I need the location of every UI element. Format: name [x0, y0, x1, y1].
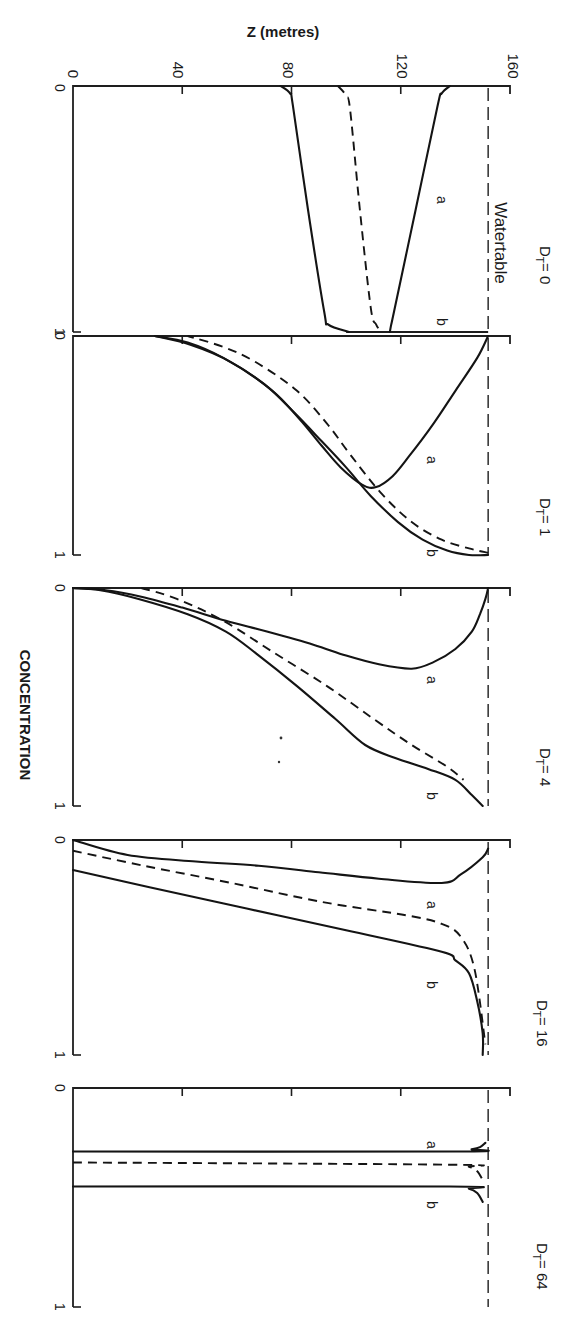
conc-tick-1: 1 [52, 1051, 68, 1059]
panel-dt-1: 01abDT= 1 [52, 332, 554, 559]
curve-dashed [141, 588, 463, 780]
z-axis-line [73, 336, 510, 555]
concentration-axis-title: CONCENTRATION [17, 650, 34, 781]
z-axis-title: Z (metres) [247, 23, 320, 40]
scan-speck [280, 737, 283, 740]
conc-tick-1: 1 [52, 551, 68, 559]
curve-label-a: a [424, 676, 440, 684]
panel-label: DT= 64 [531, 1243, 551, 1290]
curve-a [155, 336, 488, 488]
curve-label-b: b [424, 792, 440, 800]
panel-dt-64: 01abDT= 64 [52, 1084, 551, 1311]
z-tick-160: 160 [505, 53, 522, 78]
curve-a [390, 86, 450, 332]
curve-a [73, 840, 488, 883]
curve-b [73, 588, 483, 806]
curve-label-a: a [424, 456, 440, 464]
z-tick-80: 80 [280, 62, 297, 79]
curve-dashed [73, 1163, 484, 1181]
panel-label: DT= 1 [534, 498, 554, 536]
z-axis-line [73, 588, 510, 806]
panel-label: DT= 0 [534, 246, 554, 284]
z-axis-line [73, 840, 510, 1055]
curve-label-a: a [424, 1141, 440, 1149]
panel-label: DT= 4 [534, 748, 554, 786]
z-tick-40: 40 [170, 62, 187, 79]
conc-tick-0: 0 [52, 1084, 68, 1092]
figure-canvas: Z (metres) 0 40 80 120 160 CONCENTRATION… [0, 0, 567, 1334]
z-axis-line [73, 86, 510, 332]
curve-label-b: b [424, 1201, 440, 1209]
conc-tick-0: 0 [52, 836, 68, 844]
z-tick-labels: 0 40 80 120 160 [65, 53, 522, 78]
curve-dashed [188, 336, 488, 553]
z-axis-line [73, 1088, 510, 1307]
watertable-label: Watertable [491, 202, 510, 284]
conc-tick-1: 1 [52, 1303, 68, 1311]
panel-label: DT= 16 [531, 1000, 551, 1047]
scan-speck [278, 761, 280, 763]
conc-tick-0: 0 [52, 584, 68, 592]
conc-tick-1: 1 [52, 802, 68, 810]
conc-tick-0: 0 [52, 84, 68, 92]
conc-tick-0: 0 [52, 332, 68, 340]
curve-label-b: b [424, 549, 440, 557]
z-tick-0: 0 [65, 70, 82, 78]
curve-label-b: b [434, 318, 450, 326]
curve-label-a: a [434, 196, 450, 204]
curve-b [73, 1186, 484, 1202]
curve-b [281, 86, 349, 332]
curve-label-b: b [424, 981, 440, 989]
curve-b [73, 870, 483, 1055]
panel-dt-4: 01abDT= 4 [52, 584, 554, 810]
panel-dt-16: 01abDT= 16 [52, 836, 551, 1059]
curve-dashed [338, 86, 382, 332]
curve-label-a: a [424, 901, 440, 909]
chart-panels: 01abDT= 001abDT= 101abDT= 401abDT= 1601a… [52, 84, 554, 1311]
z-tick-120: 120 [394, 53, 411, 78]
panel-dt-0: 01abDT= 0 [52, 84, 554, 336]
